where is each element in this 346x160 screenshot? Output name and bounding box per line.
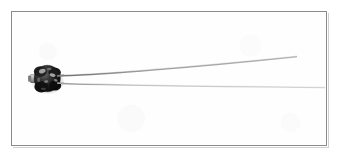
component-photograph <box>12 12 326 145</box>
screenshot-root: bead thermistor with two wire leads <box>0 0 346 160</box>
photo-frame <box>11 11 327 146</box>
bead-body <box>34 65 61 92</box>
